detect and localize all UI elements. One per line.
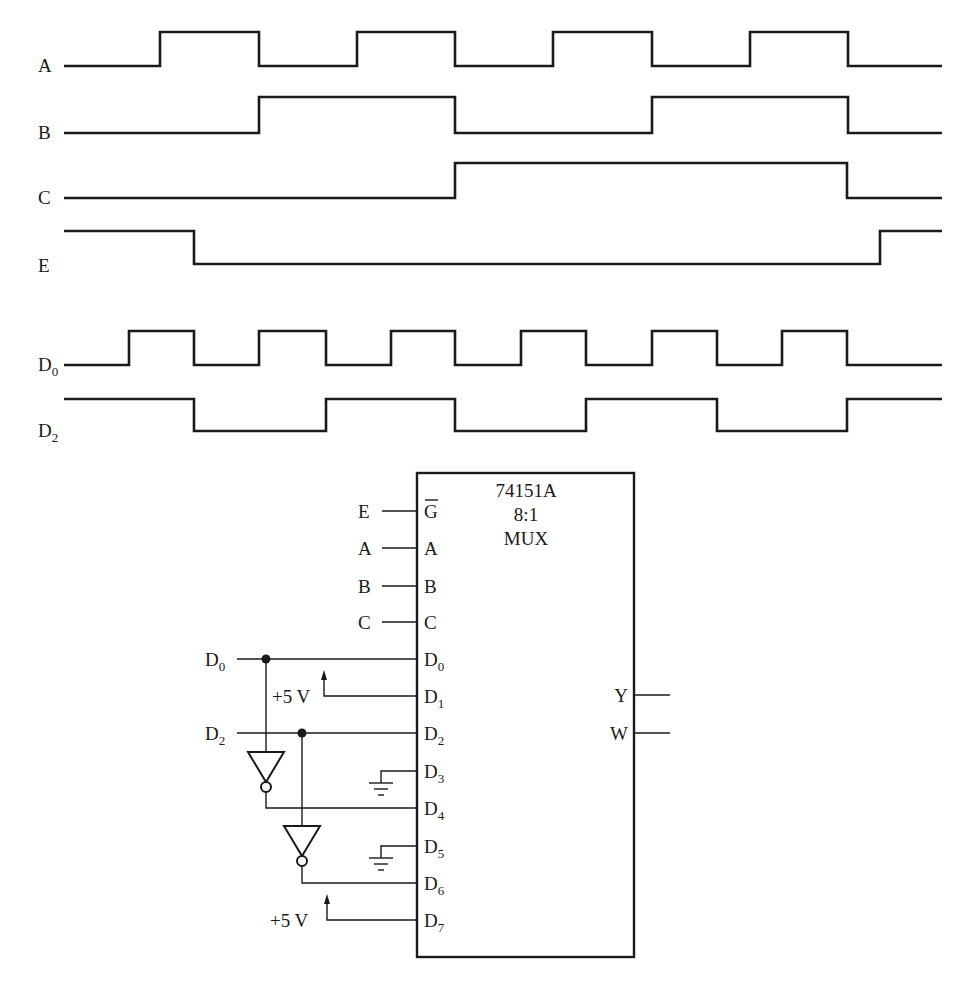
- chip-pin-labels: G A B C D0 D1 D2 D3 D4 D5 D6 D7 Y W: [424, 500, 628, 935]
- wire-vcc-d1: [324, 676, 417, 696]
- inverter-d0: [248, 752, 417, 808]
- waveform-d2-trace: [64, 399, 942, 431]
- pin-label-a: A: [424, 538, 438, 559]
- mux-circuit: 74151A 8:1 MUX G A B C D0 D1 D2 D3 D4 D5…: [205, 473, 670, 957]
- external-label-d0: D0: [205, 649, 225, 674]
- pin-label-d3: D3: [424, 761, 444, 786]
- waveform-b-trace: [64, 97, 942, 133]
- vcc-d7: +5 V: [270, 894, 417, 931]
- data-input-d2: D2: [205, 723, 417, 826]
- data-input-d0: D0: [205, 649, 417, 752]
- vcc-arrow-icon: [321, 670, 327, 680]
- wire-vcc-d7: [327, 900, 417, 920]
- wire-not-d2-to-d6: [302, 866, 417, 883]
- vcc-d1: +5 V: [272, 670, 417, 707]
- inverter-triangle-icon: [284, 826, 320, 856]
- pin-label-d2: D2: [424, 723, 444, 748]
- wire-not-d0-to-d4: [266, 792, 417, 808]
- waveform-d0-trace: [64, 331, 942, 365]
- waveform-label-d2: D2: [38, 420, 58, 445]
- waveform-a: A: [38, 32, 942, 76]
- outputs: [634, 695, 670, 733]
- waveform-e: E: [38, 231, 942, 276]
- ground-icon: [369, 783, 393, 795]
- waveform-b: B: [38, 97, 942, 143]
- waveform-d0: D0: [38, 331, 942, 379]
- external-label-a: A: [358, 538, 372, 559]
- ground-icon: [369, 858, 393, 870]
- wire-d3-to-ground: [381, 771, 417, 783]
- pin-label-y: Y: [614, 685, 628, 706]
- timing-diagram: A B C E D0 D2: [38, 32, 942, 445]
- external-label-b: B: [358, 576, 371, 597]
- waveform-label-b: B: [38, 122, 51, 143]
- pin-label-d4: D4: [424, 798, 445, 823]
- waveform-c: C: [38, 163, 942, 208]
- chip-part-number: 74151A: [495, 480, 557, 501]
- chip-type: MUX: [504, 528, 549, 549]
- waveform-e-trace: [64, 231, 942, 264]
- waveform-label-d0: D0: [38, 354, 58, 379]
- pin-label-d7: D7: [424, 910, 445, 935]
- pin-label-b: B: [424, 576, 437, 597]
- pin-label-g-bar: G: [424, 501, 438, 522]
- external-label-e: E: [358, 501, 370, 522]
- vcc-label-d1: +5 V: [272, 686, 311, 707]
- select-inputs: E A B C: [358, 501, 417, 633]
- vcc-arrow-icon: [324, 894, 330, 904]
- ground-d3: [369, 771, 417, 795]
- external-label-d2: D2: [205, 723, 225, 748]
- inverter-d2: [284, 826, 417, 883]
- inverter-triangle-icon: [248, 752, 284, 782]
- waveform-label-a: A: [38, 55, 52, 76]
- mux-timing-diagram-figure: A B C E D0 D2 74151A 8:1 MUX: [0, 0, 977, 988]
- waveform-label-e: E: [38, 255, 50, 276]
- pin-label-d6: D6: [424, 873, 445, 898]
- chip-ratio: 8:1: [514, 504, 538, 525]
- waveform-label-c: C: [38, 187, 51, 208]
- vcc-label-d7: +5 V: [270, 910, 309, 931]
- inverter-bubble-icon: [261, 782, 271, 792]
- pin-label-c: C: [424, 612, 437, 633]
- waveform-c-trace: [64, 163, 942, 198]
- waveform-a-trace: [64, 32, 942, 66]
- ground-d5: [369, 846, 417, 870]
- inverter-bubble-icon: [297, 856, 307, 866]
- waveform-d2: D2: [38, 399, 942, 445]
- external-label-c: C: [358, 612, 371, 633]
- pin-label-d1: D1: [424, 686, 444, 711]
- wire-d5-to-ground: [381, 846, 417, 858]
- pin-label-d5: D5: [424, 836, 444, 861]
- pin-label-d0: D0: [424, 649, 444, 674]
- pin-label-w: W: [610, 723, 628, 744]
